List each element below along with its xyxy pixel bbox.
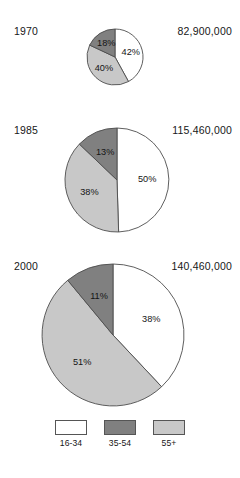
year-label-1985: 1985 — [14, 124, 38, 136]
pie-slice-label-1970-16-34: 42% — [122, 47, 140, 57]
pie-slice-label-1985-35-54: 13% — [96, 147, 114, 157]
total-label-1985: 115,460,000 — [172, 124, 232, 136]
year-label-1970: 1970 — [14, 25, 38, 37]
pie-slice-label-1985-16-34: 50% — [138, 174, 156, 184]
pie-slice-label-2000-35-54: 11% — [90, 291, 108, 301]
pie-slice-label-1970-35-54: 18% — [97, 38, 115, 48]
legend-label-16-34: 16-34 — [60, 438, 82, 448]
legend-label-55+: 55+ — [162, 438, 177, 448]
legend-swatch-35-54 — [104, 420, 136, 435]
legend-item-55+[interactable]: 55+ — [150, 420, 188, 448]
pie-slice-label-2000-16-34: 38% — [142, 314, 160, 324]
pie-slice-label-1985-55+: 38% — [80, 187, 98, 197]
total-label-2000: 140,460,000 — [171, 260, 232, 272]
year-label-2000: 2000 — [14, 260, 38, 272]
chart-legend: 16-3435-5455+ — [0, 420, 240, 448]
pie-chart-2000: 38%51%11% — [0, 248, 240, 422]
legend-item-35-54[interactable]: 35-54 — [101, 420, 139, 448]
pie-slice-label-1970-55+: 40% — [95, 63, 113, 73]
legend-swatch-16-34 — [55, 420, 87, 435]
legend-item-16-34[interactable]: 16-34 — [52, 420, 90, 448]
total-label-1970: 82,900,000 — [177, 25, 232, 37]
legend-label-35-54: 35-54 — [109, 438, 131, 448]
legend-swatch-55plus — [153, 420, 185, 435]
pie-slice-label-2000-55+: 51% — [73, 357, 91, 367]
pie-chart-figure: 42%40%18%197082,900,00050%38%13%1985115,… — [0, 0, 240, 478]
